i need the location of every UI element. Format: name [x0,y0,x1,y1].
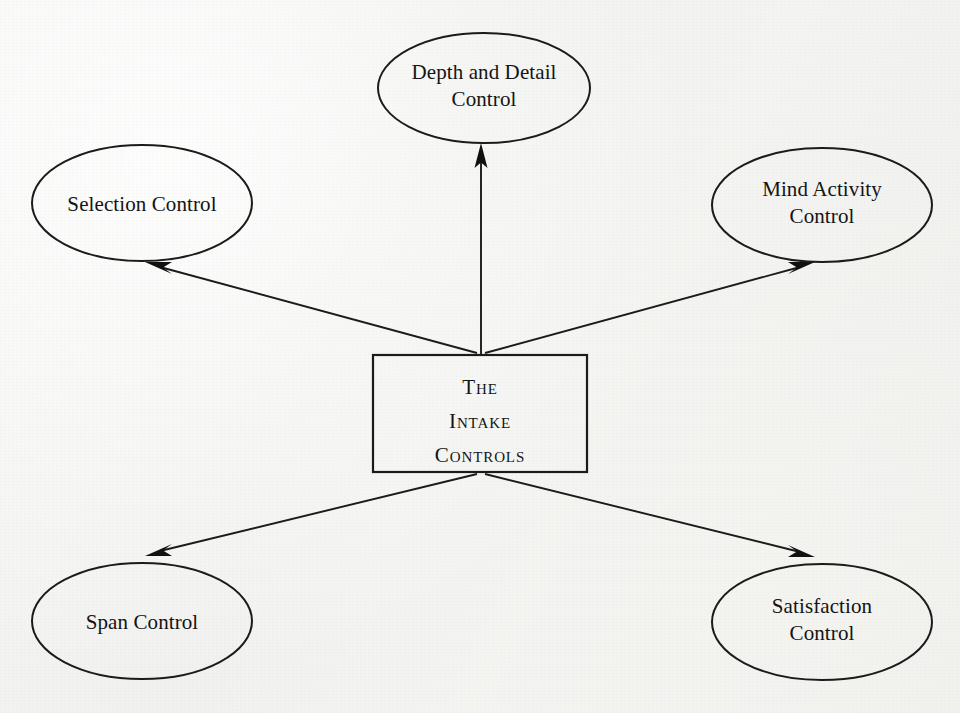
connectors-layer [145,143,815,557]
arrow-to-depth-and-detail-control [475,143,488,354]
arrow-to-span-control [145,474,477,556]
node-shape-the-intake-controls[interactable] [373,355,587,472]
diagram-graphics [0,0,960,713]
node-shape-mind-activity-control[interactable] [712,148,932,262]
arrow-to-mind-activity-control [485,262,815,353]
connector-line [160,474,477,551]
node-shape-selection-control[interactable] [32,145,252,261]
nodes-layer [32,33,932,680]
connector-line [485,267,800,353]
node-shape-depth-and-detail-control[interactable] [378,33,590,143]
diagram-canvas: Depth and Detail Control Selection Contr… [0,0,960,713]
connector-line [485,474,800,552]
arrow-to-satisfaction-control [485,474,815,557]
arrowhead-up-left-icon [145,262,172,274]
node-shape-span-control[interactable] [32,563,252,679]
connector-line [160,267,477,353]
arrowhead-up-right-icon [788,262,815,274]
node-shape-satisfaction-control[interactable] [712,564,932,680]
arrow-to-selection-control [145,262,477,353]
